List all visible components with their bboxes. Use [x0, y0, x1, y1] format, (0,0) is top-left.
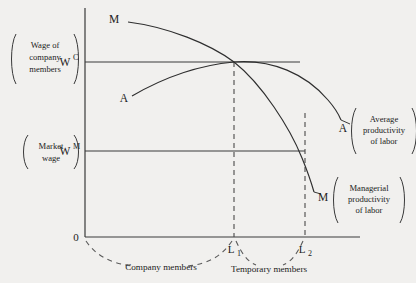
curve-end-letter-average: A [339, 122, 348, 134]
wm-superscript: M [73, 142, 80, 151]
curve-average-productivity [132, 62, 341, 120]
managerial-label-line-1: Managerial [349, 183, 389, 193]
axis-label-wm: W M [60, 142, 81, 157]
x-axis-labels-group: L 1 L 2 [228, 243, 312, 258]
wage-company-label-line-1: Wage of [31, 40, 60, 50]
bracket-left-paren-average [352, 108, 357, 154]
economics-diagram: Wage of company members Market wage W C … [0, 0, 416, 283]
origin-label: 0 [73, 231, 79, 243]
wage-lines-group [85, 62, 305, 151]
segment-braces-group: Company members Temporary members [86, 241, 307, 274]
average-label-line-1: Average [370, 114, 399, 124]
average-label-line-3: of labor [371, 136, 398, 146]
bracket-right-paren-managerial [400, 177, 405, 223]
wm-symbol: W [60, 145, 71, 157]
diagram-canvas: Wage of company members Market wage W C … [0, 0, 416, 283]
bracket-left-paren-market [24, 135, 29, 169]
market-wage-label-line-2: wage [42, 153, 60, 163]
curve-end-letter-managerial: M [318, 191, 328, 203]
side-label-average-productivity: A Average productivity of labor [339, 108, 416, 154]
segment-label-temporary-members: Temporary members [231, 264, 308, 274]
bracket-left-paren-company [12, 34, 17, 84]
bracket-left-paren-managerial [334, 177, 339, 223]
wage-company-label-line-2: company [29, 52, 61, 62]
l2-subscript: 2 [308, 249, 312, 258]
wc-symbol: W [60, 56, 71, 68]
segment-label-company-members: Company members [125, 262, 197, 272]
axis-label-wc: W C [60, 53, 79, 68]
curve-managerial-productivity [128, 22, 314, 192]
wc-superscript: C [73, 53, 78, 62]
bracket-right-paren-market [74, 135, 79, 169]
curve-start-letter-average: A [120, 92, 129, 104]
bracket-right-paren-average [412, 108, 416, 154]
wage-company-label-line-3: members [29, 64, 61, 74]
managerial-label-line-2: productivity [348, 194, 391, 204]
curve-start-letter-managerial: M [109, 13, 119, 25]
managerial-label-line-3: of labor [356, 205, 383, 215]
l2-symbol: L [299, 243, 306, 255]
dashed-drops-group [234, 62, 305, 237]
side-label-managerial-productivity: M Managerial productivity of labor [318, 177, 405, 223]
average-label-line-2: productivity [363, 125, 406, 135]
